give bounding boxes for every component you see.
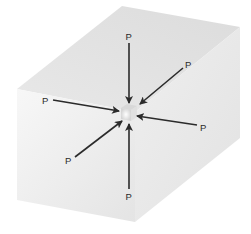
label-upper-right: P	[185, 59, 191, 70]
label-lower-left: P	[65, 155, 71, 166]
label-left: P	[42, 95, 48, 106]
label-right: P	[200, 122, 206, 133]
label-bottom: P	[126, 191, 132, 202]
pressure-diagram: P P P P P P	[0, 0, 251, 234]
label-top: P	[126, 31, 132, 42]
stress-element-cube	[121, 104, 137, 121]
